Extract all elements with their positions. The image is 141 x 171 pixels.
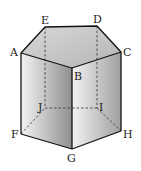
label-f: F	[11, 128, 19, 141]
label-b: B	[74, 70, 82, 83]
label-e: E	[41, 14, 49, 27]
label-d: D	[93, 13, 102, 26]
label-g: G	[67, 152, 76, 165]
label-c: C	[123, 46, 131, 59]
label-a: A	[9, 46, 19, 59]
label-h: H	[123, 128, 133, 141]
left-face	[21, 53, 72, 149]
label-i: I	[99, 101, 103, 114]
right-face	[72, 52, 121, 149]
label-j: J	[37, 101, 42, 114]
prism-diagram: E D A C B J I F H G	[0, 0, 141, 171]
